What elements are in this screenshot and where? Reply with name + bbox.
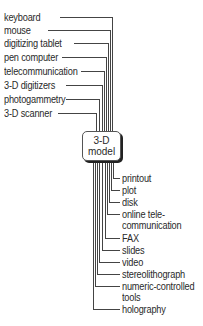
center-node-line1: 3-D xyxy=(83,135,120,146)
input-3d-scanner: 3-D scanner xyxy=(4,108,52,119)
output-plot: plot xyxy=(122,185,136,196)
input-pen-computer: pen computer xyxy=(4,52,58,63)
input-keyboard: keyboard xyxy=(4,12,40,23)
input-photogammetry: photogammetry xyxy=(4,94,66,105)
output-numeric-controlled-tools-cont: tools xyxy=(122,292,141,303)
output-fax: FAX xyxy=(122,233,139,244)
input-digitizing-tablet: digitizing tablet xyxy=(4,38,62,49)
output-holography: holography xyxy=(122,304,166,315)
output-online-telecommunication-cont: communication xyxy=(122,220,181,231)
output-numeric-controlled-tools: numeric-controlled xyxy=(122,281,194,292)
center-node-line2: model xyxy=(83,146,120,157)
center-node-3d-model: 3-D model xyxy=(82,131,121,161)
input-telecommunication: telecommunication xyxy=(4,66,78,77)
input-3d-digitizers: 3-D digitizers xyxy=(4,80,55,91)
output-online-telecommunication: online tele- xyxy=(122,209,165,220)
output-slides: slides xyxy=(122,245,144,256)
output-stereolithograph: stereolithograph xyxy=(122,269,185,280)
output-video: video xyxy=(122,257,143,268)
output-disk: disk xyxy=(122,197,138,208)
output-printout: printout xyxy=(122,173,151,184)
input-mouse: mouse xyxy=(4,25,31,36)
